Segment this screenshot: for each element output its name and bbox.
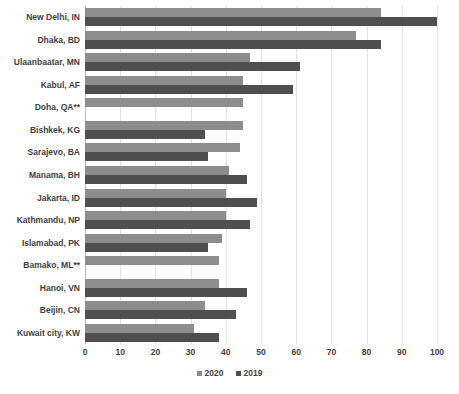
bar-group [85,209,437,232]
bar-group [85,186,437,209]
legend-label: 2020 [205,368,224,378]
category-label: Ulaanbaatar, MN [0,57,80,67]
legend-label: 2019 [244,368,263,378]
bar-group [85,276,437,299]
bar-2020 [85,301,205,310]
category-axis-labels: New Delhi, INDhaka, BDUlaanbaatar, MNKab… [0,6,80,344]
bar-group [85,74,437,97]
x-tick-label: 40 [221,347,230,357]
bar-2019 [85,198,257,207]
category-label: New Delhi, IN [0,12,80,22]
x-tick-label: 60 [291,347,300,357]
category-label: Beijin, CN [0,305,80,315]
bar-group [85,29,437,52]
bar-group [85,299,437,322]
bar-2019 [85,152,208,161]
x-tick-label: 50 [256,347,265,357]
bar-2019 [85,310,236,319]
bar-2020 [85,53,250,62]
bar-2019 [85,220,250,229]
bar-group [85,231,437,254]
category-label: Bishkek, KG [0,125,80,135]
bar-2020 [85,324,194,333]
bar-2019 [85,130,205,139]
category-label: Doha, QA** [0,102,80,112]
x-tick-label: 100 [430,347,444,357]
bar-2020 [85,98,243,107]
value-axis: 0102030405060708090100 [85,344,437,360]
bar-2020 [85,166,229,175]
bar-group [85,119,437,142]
bar-group [85,96,437,119]
bar-2020 [85,121,243,130]
bar-group [85,164,437,187]
bar-2019 [85,288,247,297]
x-tick-label: 80 [362,347,371,357]
bar-2019 [85,175,247,184]
bar-2020 [85,234,222,243]
bar-group [85,141,437,164]
bar-2020 [85,143,240,152]
bar-2020 [85,256,219,265]
x-tick-label: 30 [186,347,195,357]
category-label: Kabul, AF [0,80,80,90]
bar-2020 [85,211,226,220]
bar-rows [85,6,437,344]
legend-swatch-icon [236,371,241,376]
bar-2019 [85,85,293,94]
bar-group [85,6,437,29]
category-label: Kuwait city, KW [0,328,80,338]
bar-2020 [85,8,381,17]
category-label: Sarajevo, BA [0,147,80,157]
x-tick-label: 10 [115,347,124,357]
category-label: Hanoi, VN [0,283,80,293]
bar-chart: New Delhi, INDhaka, BDUlaanbaatar, MNKab… [0,0,459,394]
x-tick-label: 90 [397,347,406,357]
plot-area [85,6,437,344]
bar-group [85,51,437,74]
bar-2020 [85,279,219,288]
bar-2020 [85,189,226,198]
legend-swatch-icon [197,371,202,376]
bar-2020 [85,31,356,40]
category-label: Kathmandu, NP [0,215,80,225]
category-label: Islamabad, PK [0,238,80,248]
bar-group [85,321,437,344]
legend-item-2019[interactable]: 2019 [236,368,263,378]
bar-2019 [85,17,437,26]
bar-2020 [85,76,243,85]
bar-2019 [85,333,219,342]
x-tick-label: 20 [151,347,160,357]
legend-item-2020[interactable]: 2020 [197,368,224,378]
bar-2019 [85,243,208,252]
gridline-100 [437,6,438,344]
category-label: Dhaka, BD [0,35,80,45]
category-label: Bamako, ML** [0,260,80,270]
x-tick-label: 0 [83,347,88,357]
bar-group [85,254,437,277]
bar-2019 [85,40,381,49]
bar-2019 [85,62,300,71]
x-tick-label: 70 [327,347,336,357]
category-label: Manama, BH [0,170,80,180]
chart-legend: 20202019 [0,368,459,378]
category-label: Jakarta, ID [0,193,80,203]
